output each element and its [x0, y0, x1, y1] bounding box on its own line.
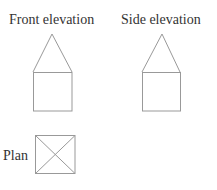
front-roof-triangle [33, 34, 72, 72]
side-elevation-view: Side elevation [121, 12, 201, 111]
orthographic-diagram: Front elevation Side elevation Plan [0, 0, 217, 190]
plan-label: Plan [3, 148, 28, 163]
side-elevation-label: Side elevation [121, 12, 201, 27]
front-wall-square [34, 73, 73, 112]
side-roof-triangle [142, 34, 180, 72]
side-wall-square [143, 73, 181, 112]
front-elevation-view: Front elevation [9, 12, 94, 111]
front-elevation-label: Front elevation [9, 12, 94, 27]
plan-view: Plan [3, 136, 75, 174]
